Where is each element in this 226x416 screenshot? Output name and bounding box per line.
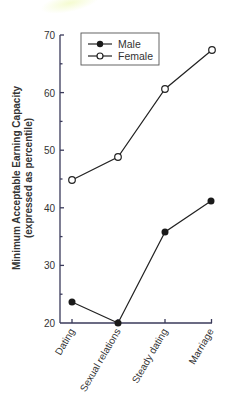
female-point-sexual-relations bbox=[115, 154, 122, 161]
y-axis-title: Minimum Acceptable Earning Capacity (exp… bbox=[11, 86, 34, 271]
female-point-steady-dating bbox=[162, 86, 169, 93]
male-point-dating bbox=[69, 299, 76, 306]
y-tick-40: 40 bbox=[44, 203, 56, 214]
legend-female-marker-icon bbox=[97, 53, 103, 59]
female-point-marriage bbox=[209, 47, 216, 54]
x-label-steady-dating: Steady dating bbox=[130, 327, 170, 385]
y-tick-30: 30 bbox=[44, 260, 56, 271]
y-tick-60: 60 bbox=[44, 88, 56, 99]
male-point-marriage bbox=[208, 198, 215, 205]
female-point-dating bbox=[69, 177, 76, 184]
line-chart: Minimum Acceptable Earning Capacity (exp… bbox=[0, 0, 226, 416]
y-axis-title-line1: Minimum Acceptable Earning Capacity bbox=[11, 86, 22, 271]
male-line bbox=[72, 201, 211, 323]
x-tick-labels: Dating Sexual relations Steady dating Ma… bbox=[53, 326, 216, 393]
y-tick-labels: 20 30 40 50 60 70 bbox=[44, 30, 56, 329]
legend: Male Female bbox=[81, 33, 159, 65]
legend-male-marker-icon bbox=[97, 41, 103, 47]
y-tick-50: 50 bbox=[44, 145, 56, 156]
male-point-sexual-relations bbox=[115, 320, 122, 327]
x-label-sexual-relations: Sexual relations bbox=[78, 327, 123, 394]
series-male bbox=[69, 198, 215, 327]
axes bbox=[60, 35, 212, 323]
legend-male-label: Male bbox=[118, 38, 141, 50]
y-tick-20: 20 bbox=[44, 318, 56, 329]
male-point-steady-dating bbox=[162, 229, 169, 236]
series-female bbox=[69, 47, 216, 184]
y-axis-title-line2: (expressed as percentile) bbox=[23, 118, 34, 238]
y-tick-70: 70 bbox=[44, 30, 56, 41]
x-label-dating: Dating bbox=[53, 327, 77, 358]
x-label-marriage: Marriage bbox=[186, 326, 215, 366]
legend-female-label: Female bbox=[118, 50, 153, 62]
female-line bbox=[72, 50, 212, 180]
